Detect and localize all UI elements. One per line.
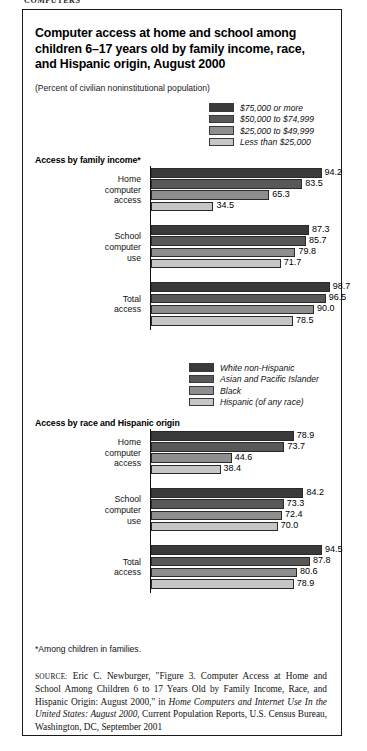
legend-item-label: Hispanic (of any race)	[220, 397, 304, 407]
bar	[151, 442, 284, 452]
legend-item-label: Asian and Pacific Islander	[220, 374, 319, 384]
bar	[151, 202, 213, 212]
bar-value-label: 90.0	[317, 304, 335, 314]
legend-family-income: $75,000 or more$50,000 to $74,999$25,000…	[209, 102, 314, 148]
bar-value-label: 72.4	[285, 510, 303, 520]
bar	[151, 431, 294, 441]
bar	[151, 511, 282, 521]
legend-item: Black	[189, 385, 319, 396]
chart-group: Totalaccess98.796.590.078.5	[35, 282, 335, 325]
legend-race-hispanic-origin: White non-HispanicAsian and Pacific Isla…	[189, 362, 319, 408]
source-label: SOURCE:	[35, 672, 68, 681]
bar-value-label: 87.8	[313, 556, 331, 566]
bar	[151, 225, 309, 235]
bar-value-label: 78.9	[297, 431, 315, 441]
bar	[151, 579, 294, 589]
chart-group: Homecomputeraccess94.283.565.334.5	[35, 168, 335, 211]
figure-inner: Computer access at home and school among…	[23, 10, 341, 735]
chart-group: Schoolcomputeruse84.273.372.470.0	[35, 488, 335, 531]
legend-swatch-icon	[209, 138, 234, 147]
legend-item: $50,000 to $74,999	[209, 114, 314, 125]
bar	[151, 465, 221, 475]
bar-value-label: 78.5	[296, 316, 314, 326]
legend-swatch-icon	[189, 386, 214, 395]
bar-value-label: 87.3	[312, 225, 330, 235]
bar-value-label: 78.9	[297, 579, 315, 589]
bar-value-label: 85.7	[309, 236, 327, 246]
bar	[151, 557, 310, 567]
bar	[151, 259, 281, 269]
bar-value-label: 94.5	[325, 545, 343, 555]
legend-item-label: $25,000 to $49,999	[240, 126, 314, 136]
bar	[151, 305, 314, 315]
bar	[151, 248, 295, 258]
bar	[151, 168, 322, 178]
legend-swatch-icon	[189, 363, 214, 372]
y-axis-line	[150, 166, 151, 330]
bar	[151, 282, 330, 292]
legend-item: $75,000 or more	[209, 102, 314, 113]
legend-swatch-icon	[209, 103, 234, 112]
bar	[151, 499, 284, 509]
bar-value-label: 98.7	[333, 282, 351, 292]
chart-group: Schoolcomputeruse87.385.779.871.7	[35, 225, 335, 268]
legend-item-label: $75,000 or more	[240, 103, 303, 113]
bar-value-label: 73.3	[287, 499, 305, 509]
bar-value-label: 71.7	[284, 258, 302, 268]
breadcrumb: COMPUTERS	[24, 0, 81, 3]
bar	[151, 568, 297, 578]
section-heading-race: Access by race and Hispanic origin	[35, 418, 180, 428]
bar	[151, 522, 278, 532]
legend-swatch-icon	[189, 375, 214, 384]
bar-value-label: 38.4	[224, 464, 242, 474]
legend-item: White non-Hispanic	[189, 362, 319, 373]
legend-swatch-icon	[209, 126, 234, 135]
category-label: Schoolcomputeruse	[35, 231, 141, 263]
bar-value-label: 34.5	[216, 201, 234, 211]
category-label: Schoolcomputeruse	[35, 494, 141, 526]
chart-group: Totalaccess94.587.880.678.9	[35, 545, 335, 588]
bar-value-label: 65.3	[272, 190, 290, 200]
page-title: Computer access at home and school among…	[35, 26, 323, 73]
bar-value-label: 73.7	[287, 442, 305, 452]
footnote: *Among children in families.	[35, 644, 141, 654]
legend-item-label: Black	[220, 386, 241, 396]
bar-value-label: 94.2	[325, 168, 343, 178]
bar	[151, 294, 326, 304]
bar	[151, 236, 306, 246]
chart-group: Homecomputeraccess78.973.744.638.4	[35, 431, 335, 474]
legend-item: Asian and Pacific Islander	[189, 374, 319, 385]
y-axis-line	[150, 429, 151, 593]
bar	[151, 316, 293, 326]
legend-swatch-icon	[209, 115, 234, 124]
bar	[151, 179, 302, 189]
legend-item-label: Less than $25,000	[240, 137, 311, 147]
legend-swatch-icon	[189, 398, 214, 407]
figure-box: Computer access at home and school among…	[22, 9, 342, 736]
figure-subtitle: (Percent of civilian noninstitutional po…	[35, 83, 325, 93]
legend-item: Hispanic (of any race)	[189, 397, 319, 408]
source-note: SOURCE: Eric C. Newburger, "Figure 3. Co…	[35, 670, 327, 733]
bar	[151, 453, 232, 463]
bar-value-label: 84.2	[306, 488, 324, 498]
legend-item: $25,000 to $49,999	[209, 125, 314, 136]
category-label: Totalaccess	[35, 557, 141, 578]
bar	[151, 190, 269, 200]
bar-value-label: 70.0	[281, 521, 299, 531]
legend-item-label: $50,000 to $74,999	[240, 114, 314, 124]
legend-item-label: White non-Hispanic	[220, 363, 295, 373]
bar-value-label: 79.8	[298, 247, 316, 257]
section-heading-income: Access by family income*	[35, 155, 141, 165]
bar-value-label: 44.6	[235, 453, 253, 463]
bar-value-label: 83.5	[305, 179, 323, 189]
bar	[151, 488, 303, 498]
legend-item: Less than $25,000	[209, 137, 314, 148]
figure-page: COMPUTERS Computer access at home and sc…	[0, 0, 367, 751]
category-label: Totalaccess	[35, 294, 141, 315]
bar	[151, 545, 322, 555]
bar-value-label: 96.5	[329, 293, 347, 303]
category-label: Homecomputeraccess	[35, 437, 141, 469]
category-label: Homecomputeraccess	[35, 174, 141, 206]
bar-value-label: 80.6	[300, 567, 318, 577]
